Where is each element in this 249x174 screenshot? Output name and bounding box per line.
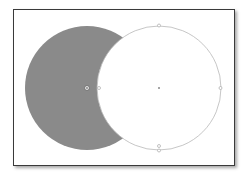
handle-bottom-2[interactable] xyxy=(158,145,161,148)
handle-bottom[interactable] xyxy=(158,149,161,152)
drawing-canvas[interactable] xyxy=(0,0,249,174)
back-center-dot xyxy=(86,87,88,89)
handle-top[interactable] xyxy=(158,24,161,27)
handle-left[interactable] xyxy=(98,87,101,90)
front-center-point xyxy=(158,87,160,89)
handle-right[interactable] xyxy=(219,87,222,90)
